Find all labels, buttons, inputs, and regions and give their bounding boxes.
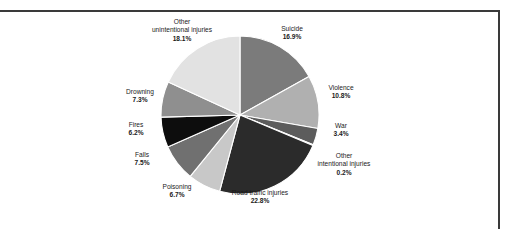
pie-label-percent: 3.4% (316, 130, 366, 138)
pie-label-violence: Violence 10.8% (310, 84, 372, 101)
pie-label-name-line1: Other (126, 18, 238, 26)
pie-label-name-line2: unintentional injuries (126, 26, 238, 34)
pie-label-suicide: Suicide 16.9% (258, 25, 326, 42)
pie-label-percent: 22.8% (212, 197, 308, 205)
pie-label-percent: 10.8% (310, 92, 372, 100)
pie-label-poisoning: Poisoning 6.7% (146, 183, 208, 200)
pie-label-drowning: Drowning 7.3% (108, 88, 172, 105)
pie-label-percent: 6.7% (146, 191, 208, 199)
frame-right-rule (498, 10, 500, 229)
pie-label-falls: Falls 7.5% (118, 151, 166, 168)
pie-label-percent: 7.3% (108, 96, 172, 104)
pie-label-road-traffic-injuries: Road traffic injuries 22.8% (212, 189, 308, 206)
pie-label-percent: 0.2% (296, 169, 392, 177)
pie-label-war: War 3.4% (316, 122, 366, 139)
pie-chart-figure: Other unintentional injuries 18.1% Suici… (0, 0, 511, 229)
pie-label-percent: 18.1% (126, 35, 238, 43)
pie-label-percent: 7.5% (118, 159, 166, 167)
pie-label-name: Drowning (108, 88, 172, 96)
pie-label-name: Suicide (258, 25, 326, 33)
pie-label-other-intentional-injuries: Other intentional injuries 0.2% (296, 152, 392, 177)
pie-label-percent: 6.2% (112, 129, 160, 137)
pie-label-name: War (316, 122, 366, 130)
pie-label-name: Road traffic injuries (212, 189, 308, 197)
pie-label-name-line1: Other (296, 152, 392, 160)
pie-label-name: Fires (112, 121, 160, 129)
pie-label-name-line2: intentional injuries (296, 160, 392, 168)
pie-label-name: Violence (310, 84, 372, 92)
pie-label-name: Poisoning (146, 183, 208, 191)
frame-top-rule (0, 10, 500, 12)
pie-label-other-unintentional-injuries: Other unintentional injuries 18.1% (126, 18, 238, 43)
pie-label-name: Falls (118, 151, 166, 159)
pie-label-fires: Fires 6.2% (112, 121, 160, 138)
pie-label-percent: 16.9% (258, 33, 326, 41)
